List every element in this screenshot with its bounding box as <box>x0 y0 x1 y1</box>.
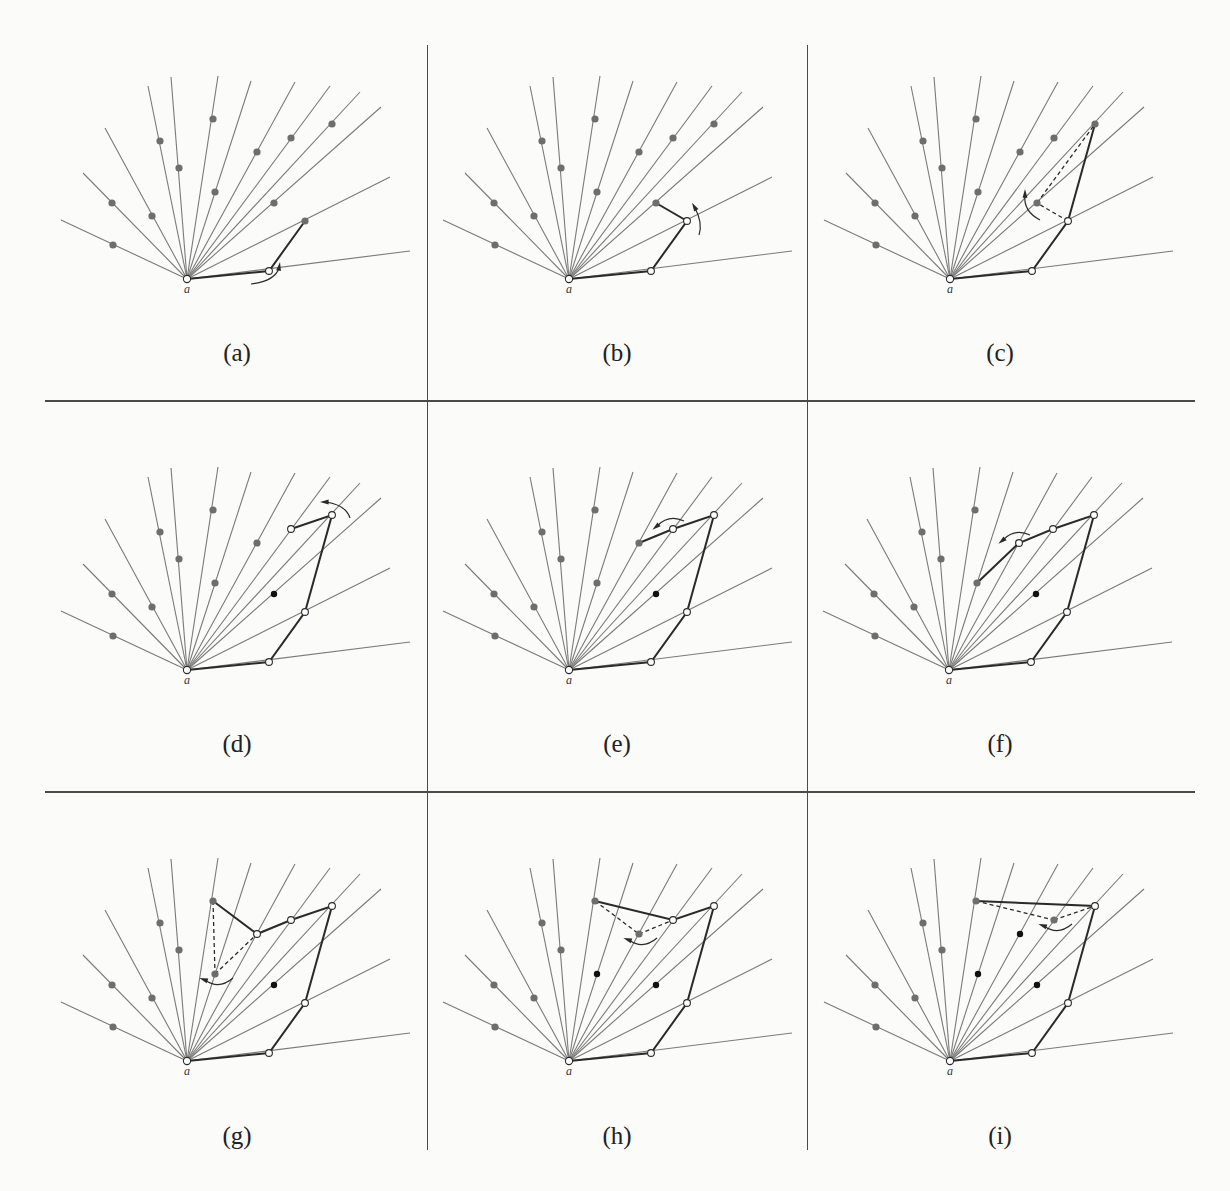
ray-6 <box>187 76 218 279</box>
ray-1 <box>824 220 950 279</box>
hull-vertex-point <box>1092 903 1099 910</box>
panel-e: a(e) <box>427 401 807 792</box>
panel-caption-e: (e) <box>427 730 807 758</box>
unprocessed-point <box>1050 134 1057 141</box>
unprocessed-point <box>209 897 216 904</box>
unprocessed-point <box>109 241 116 248</box>
ray-4 <box>911 86 950 279</box>
ray-1 <box>823 611 949 670</box>
panel-d: a(d) <box>0 401 427 792</box>
panel-caption-a: (a) <box>24 339 451 367</box>
ray-5 <box>934 859 950 1061</box>
unprocessed-point <box>490 981 497 988</box>
rotation-arrow-icon <box>695 208 700 235</box>
hull-vertex-point <box>1016 540 1023 547</box>
arrowhead-icon <box>1038 924 1047 929</box>
ray-4 <box>530 868 569 1061</box>
unprocessed-point <box>652 199 659 206</box>
hull-vertex-point <box>1029 268 1036 275</box>
discarded-point <box>594 971 600 977</box>
unprocessed-point <box>109 632 116 639</box>
panel-f: a(f) <box>807 401 1230 792</box>
unprocessed-point <box>910 603 917 610</box>
arrowhead-icon <box>692 203 698 212</box>
hull-vertex-point <box>1091 512 1098 519</box>
unprocessed-point <box>108 199 115 206</box>
hull-vertex-point <box>648 1050 655 1057</box>
ray-1 <box>443 1002 569 1061</box>
unprocessed-point <box>972 115 979 122</box>
unprocessed-point <box>538 528 545 535</box>
hull-vertex-point <box>1050 526 1057 533</box>
dashed-test-segment <box>1037 124 1095 203</box>
panel-caption-f: (f) <box>789 730 1212 758</box>
hull-chain <box>569 203 687 279</box>
unprocessed-point <box>557 164 564 171</box>
unprocessed-point <box>209 506 216 513</box>
ray-3 <box>487 128 569 279</box>
discarded-point <box>1017 931 1023 937</box>
origin-label: a <box>184 1064 190 1079</box>
hull-vertex-point <box>329 512 336 519</box>
origin-label: a <box>947 1064 953 1079</box>
unprocessed-point <box>253 539 260 546</box>
ray-4 <box>148 86 187 279</box>
unprocessed-point <box>635 148 642 155</box>
unprocessed-point <box>108 981 115 988</box>
ray-2 <box>846 955 950 1061</box>
ray-1 <box>61 611 187 670</box>
discarded-point <box>271 591 277 597</box>
ray-6 <box>187 467 218 670</box>
unprocessed-point <box>911 212 918 219</box>
origin-label: a <box>566 1064 572 1079</box>
ray-9 <box>187 477 330 670</box>
ray-6 <box>950 76 981 279</box>
unprocessed-point <box>635 930 642 937</box>
unprocessed-point <box>593 188 600 195</box>
unprocessed-point <box>175 946 182 953</box>
ray-1 <box>443 611 569 670</box>
unprocessed-point <box>974 188 981 195</box>
arrowhead-icon <box>276 262 281 271</box>
unprocessed-point <box>156 919 163 926</box>
rotation-arrow-icon <box>657 518 684 526</box>
panel-c: a(c) <box>807 0 1230 401</box>
origin-label: a <box>566 282 572 297</box>
unprocessed-point <box>557 555 564 562</box>
ray-2 <box>83 955 187 1061</box>
unprocessed-point <box>591 506 598 513</box>
unprocessed-point <box>108 590 115 597</box>
unprocessed-point <box>530 994 537 1001</box>
arrowhead-icon <box>623 938 632 943</box>
unprocessed-point <box>156 137 163 144</box>
panel-g: a(g) <box>0 792 427 1191</box>
unprocessed-point <box>209 115 216 122</box>
hull-vertex-point <box>266 1050 273 1057</box>
ray-3 <box>868 128 950 279</box>
hull-vertex-point <box>1029 1050 1036 1057</box>
ray-5 <box>553 77 569 279</box>
rotation-arrow-icon <box>1044 924 1072 931</box>
hull-vertex-point <box>266 659 273 666</box>
unprocessed-point <box>109 1023 116 1030</box>
unprocessed-point <box>937 555 944 562</box>
unprocessed-point <box>557 946 564 953</box>
unprocessed-point <box>938 164 945 171</box>
unprocessed-point <box>872 241 879 248</box>
unprocessed-point <box>530 603 537 610</box>
ray-2 <box>83 173 187 279</box>
discarded-point <box>975 971 981 977</box>
origin-label: a <box>946 673 952 688</box>
ray-3 <box>105 910 187 1061</box>
ray-2 <box>845 564 949 670</box>
unprocessed-point <box>491 241 498 248</box>
ray-3 <box>105 519 187 670</box>
discarded-point <box>1034 982 1040 988</box>
ray-2 <box>465 955 569 1061</box>
ray-5 <box>553 468 569 670</box>
ray-4 <box>530 86 569 279</box>
hull-vertex-point <box>648 659 655 666</box>
graham-scan-figure: a(a)a(b)a(c)a(d)a(e)a(f)a(g)a(h)a(i) <box>0 0 1230 1191</box>
unprocessed-point <box>175 555 182 562</box>
ray-1 <box>824 1002 950 1061</box>
